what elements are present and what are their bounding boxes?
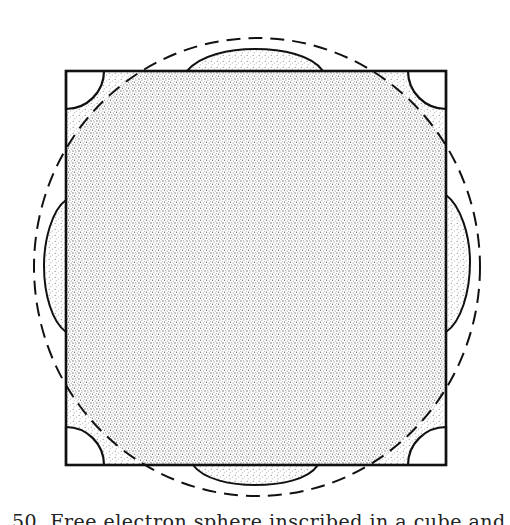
occupied-region-fill	[34, 38, 480, 496]
bulge-right	[446, 195, 470, 332]
bulge-top	[187, 49, 323, 71]
bulge-left	[44, 200, 66, 332]
fermi-surface-diagram	[0, 0, 510, 505]
bulge-bottom	[193, 465, 318, 485]
figure-caption: 50. Free electron sphere inscribed in a …	[12, 508, 510, 525]
